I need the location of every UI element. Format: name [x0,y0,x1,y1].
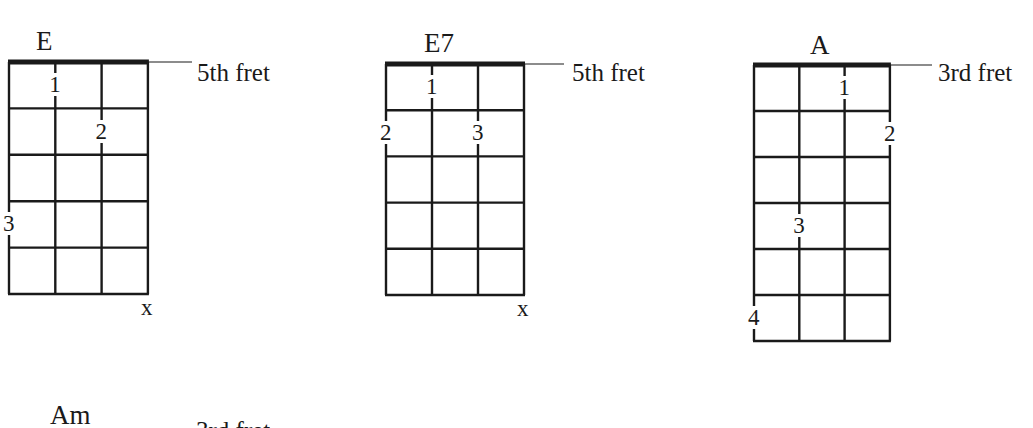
fret-label-am-cut: 3rd fret [196,418,270,428]
fretboard-grid [0,0,1033,428]
chord-title-am: Am [50,402,91,428]
chord-title-a: A [810,32,830,59]
finger-number: 1 [838,76,852,99]
finger-number: 3 [792,214,806,237]
finger-number: 2 [883,122,897,145]
fret-position-label-a: 3rd fret [938,60,1012,85]
finger-number: 4 [747,306,761,329]
